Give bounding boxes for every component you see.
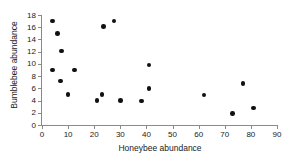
y-tick-label: 14 — [22, 35, 36, 44]
x-tick-mark — [173, 126, 174, 129]
y-tick-mark — [38, 27, 41, 28]
x-tick-mark — [277, 126, 278, 129]
y-tick-label: 10 — [22, 59, 36, 68]
data-point — [118, 98, 123, 103]
x-tick-mark — [199, 126, 200, 129]
y-tick-label: 18 — [22, 11, 36, 20]
x-tick-label: 30 — [112, 130, 128, 139]
x-axis-line — [42, 125, 278, 126]
x-tick-mark — [94, 126, 95, 129]
y-axis-title: Bumblebee abundance — [9, 10, 19, 120]
y-tick-mark — [38, 52, 41, 53]
y-tick-label: 12 — [22, 47, 36, 56]
x-tick-mark — [120, 126, 121, 129]
x-axis-title: Honeybee abundance — [42, 143, 278, 153]
data-point — [50, 68, 55, 73]
x-tick-label: 50 — [165, 130, 181, 139]
scatter-plot-figure: 024681012141618 0102030405060708090 Hone… — [0, 0, 296, 162]
x-tick-label: 70 — [217, 130, 233, 139]
data-point — [66, 92, 71, 97]
data-point — [101, 24, 106, 29]
y-tick-mark — [38, 113, 41, 114]
y-tick-mark — [38, 76, 41, 77]
y-tick-label: 6 — [22, 84, 36, 93]
x-tick-label: 40 — [138, 130, 154, 139]
plot-data-area — [42, 15, 277, 125]
y-tick-label: 2 — [22, 108, 36, 117]
data-point — [100, 92, 105, 97]
y-tick-label: 16 — [22, 23, 36, 32]
data-point — [139, 99, 144, 104]
x-tick-mark — [42, 126, 43, 129]
data-point — [241, 81, 246, 86]
y-tick-mark — [38, 15, 41, 16]
data-point — [230, 111, 235, 116]
y-tick-mark — [38, 39, 41, 40]
y-tick-mark — [38, 64, 41, 65]
x-tick-mark — [68, 126, 69, 129]
data-point — [50, 19, 55, 24]
y-tick-label: 4 — [22, 96, 36, 105]
y-tick-mark — [38, 125, 41, 126]
x-tick-label: 60 — [191, 130, 207, 139]
y-tick-label: 8 — [22, 72, 36, 81]
x-tick-label: 10 — [60, 130, 76, 139]
x-tick-label: 20 — [86, 130, 102, 139]
y-tick-label: 0 — [22, 121, 36, 130]
x-tick-label: 90 — [269, 130, 285, 139]
x-tick-mark — [225, 126, 226, 129]
x-tick-label: 0 — [34, 130, 50, 139]
data-point — [147, 86, 152, 91]
y-tick-mark — [38, 88, 41, 89]
y-tick-mark — [38, 101, 41, 102]
data-point — [95, 98, 100, 103]
data-point — [251, 106, 256, 111]
x-tick-mark — [251, 126, 252, 129]
data-point — [58, 79, 63, 84]
x-tick-label: 80 — [243, 130, 259, 139]
data-point — [55, 31, 60, 36]
x-tick-mark — [146, 126, 147, 129]
